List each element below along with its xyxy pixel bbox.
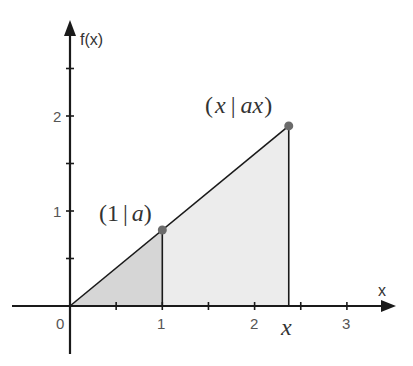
y-tick-label-1: 1 xyxy=(53,203,61,220)
y-axis-arrow-icon xyxy=(64,20,76,36)
y-tick-label-2: 2 xyxy=(53,108,61,125)
point-1-a-label: (1|a) xyxy=(99,200,152,226)
origin-label: 0 xyxy=(56,315,64,332)
paren-open: ( xyxy=(205,92,213,118)
y-axis-label: f(x) xyxy=(80,31,103,48)
x-axis-arrow-icon xyxy=(381,300,396,312)
x-tick-label-2: 2 xyxy=(250,315,258,332)
paren-open: (1 xyxy=(99,200,119,226)
shaded-region-1-to-x xyxy=(162,126,288,306)
x-marker-label: x xyxy=(280,314,292,340)
bar: | xyxy=(123,200,128,226)
bar: | xyxy=(231,92,236,118)
x-tick-label-1: 1 xyxy=(157,315,165,332)
linear-function-chart: 0 1 2 3 1 2 f(x) x (1|a) (x|ax) x xyxy=(0,0,413,366)
paren-close: ) xyxy=(264,92,272,118)
x-axis-label: x xyxy=(378,282,386,299)
point-1-a xyxy=(158,226,167,235)
x-tick-label-3: 3 xyxy=(342,315,350,332)
point-x-ax-label: (x|ax) xyxy=(205,92,272,118)
var-x: x xyxy=(214,92,226,118)
paren-close: ) xyxy=(144,200,152,226)
point-x-ax xyxy=(284,121,293,130)
var-a: a xyxy=(132,200,144,226)
var-ax: ax xyxy=(240,92,263,118)
